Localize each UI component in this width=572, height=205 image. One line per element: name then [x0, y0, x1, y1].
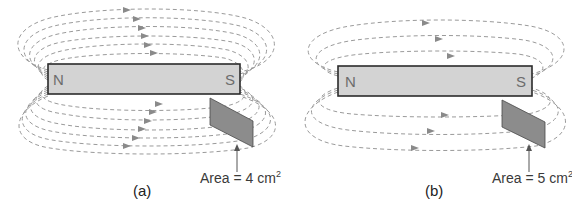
north-pole-label-a: N — [53, 71, 64, 88]
north-pole-label-b: N — [345, 73, 356, 90]
south-pole-label-b: S — [516, 73, 526, 90]
bar-magnet-b — [338, 66, 532, 96]
magnetic-flux-diagram: N S Area = 4 cm2 (a) N — [0, 0, 572, 205]
pointer-arrowhead-b — [526, 144, 532, 151]
south-pole-label-a: S — [225, 71, 235, 88]
area-plate-b — [502, 100, 545, 148]
bar-magnet-a — [48, 64, 240, 94]
panel-b: N S Area = 5 cm2 (b) — [305, 20, 572, 199]
area-label-a: Area = 4 cm2 — [200, 169, 281, 186]
caption-a: (a) — [133, 182, 151, 199]
pointer-arrowhead-a — [234, 144, 240, 151]
caption-b: (b) — [425, 182, 443, 199]
area-label-b: Area = 5 cm2 — [492, 169, 572, 186]
panel-a: N S Area = 4 cm2 (a) — [18, 7, 281, 199]
area-plate-a — [210, 98, 253, 147]
